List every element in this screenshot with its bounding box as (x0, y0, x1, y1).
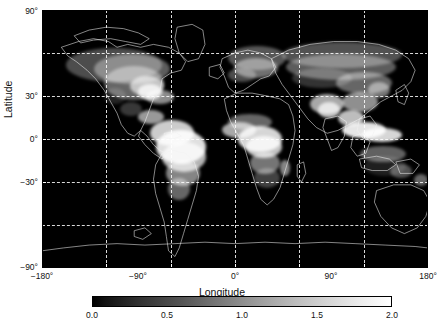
tick-mark (42, 139, 46, 140)
colorbar-tick-2: 1.0 (236, 310, 248, 320)
colorbar-tick-3: 1.5 (311, 310, 323, 320)
tick-mark (235, 264, 236, 268)
map-panel (42, 10, 428, 268)
colorbar-tick-4: 2.0 (386, 310, 398, 320)
figure-world-map: 90° 30° 0° −30° −90° −180° −90° 0° 90° 1… (0, 0, 444, 330)
tick-mark (364, 264, 365, 268)
colorbar: 0.0 0.5 1.0 1.5 2.0 (92, 296, 392, 307)
y-axis-title: Latitude (2, 81, 14, 118)
colorbar-tick-1: 0.5 (161, 310, 173, 320)
tickmark-layer (42, 10, 428, 268)
tick-mark (42, 96, 46, 97)
tick-mark (106, 264, 107, 268)
xtick-label-90: 90° (325, 271, 338, 281)
ytick-label-m30: −30° (6, 177, 38, 187)
colorbar-tick-0: 0.0 (86, 310, 98, 320)
ytick-label-30: 30° (10, 91, 38, 101)
ytick-label-0: 0° (10, 134, 38, 144)
tick-mark (299, 264, 300, 268)
xtick-label-m90: −90° (129, 271, 147, 281)
colorbar-gradient (92, 296, 392, 307)
xtick-label-180: 180° (419, 271, 437, 281)
xtick-label-m180: −180° (31, 271, 54, 281)
tick-mark (171, 264, 172, 268)
xtick-label-0: 0° (231, 271, 239, 281)
tick-mark (42, 182, 46, 183)
ytick-label-90: 90° (10, 6, 38, 16)
